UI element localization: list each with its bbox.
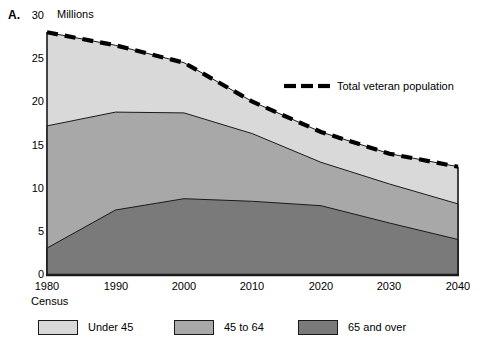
x-tick-label-2010: 2010	[229, 281, 275, 292]
legend: Under 45 45 to 64 65 and over	[0, 318, 483, 348]
x-tick-label-2000: 2000	[161, 281, 207, 292]
plot-area	[0, 0, 483, 361]
legend-swatch-65-and-over	[298, 320, 338, 335]
total-veteran-population-label: Total veteran population	[337, 81, 454, 92]
x-axis-sub-label: Census	[31, 296, 68, 307]
legend-item-45-to-64: 45 to 64	[174, 318, 304, 338]
x-tick-label-2040: 2040	[435, 281, 481, 292]
legend-label-65-and-over: 65 and over	[348, 322, 406, 333]
legend-swatch-under-45	[38, 320, 78, 335]
x-tick-label-1980: 1980	[24, 281, 70, 292]
legend-item-65-and-over: 65 and over	[298, 318, 438, 338]
veteran-population-area-chart: A. Millions 30 25 20 15 10 5 0 Total vet…	[0, 0, 483, 361]
legend-swatch-45-to-64	[174, 320, 214, 335]
x-tick-label-2030: 2030	[366, 281, 412, 292]
legend-label-45-to-64: 45 to 64	[224, 322, 264, 333]
x-tick-label-2020: 2020	[298, 281, 344, 292]
legend-item-under-45: Under 45	[38, 318, 168, 338]
x-tick-label-1990: 1990	[93, 281, 139, 292]
legend-label-under-45: Under 45	[88, 322, 133, 333]
